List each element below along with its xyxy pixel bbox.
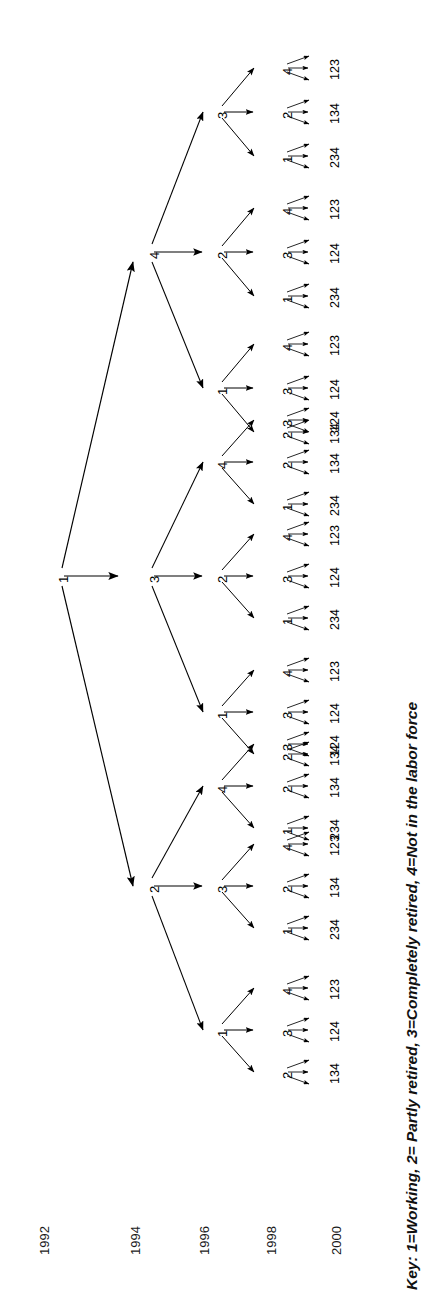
node-1996-1: 2 xyxy=(216,252,229,259)
node-1998-10: 2 xyxy=(281,462,294,469)
node-1998-25: 3 xyxy=(281,1030,294,1037)
leaf-2000-25: 124 xyxy=(329,1021,342,1042)
node-1992-root: 1 xyxy=(57,576,70,583)
key-note: Key: 1=Working, 2= Partly retired, 3=Com… xyxy=(404,702,420,1290)
node-1998-24: 4 xyxy=(281,988,294,995)
node-1996-2: 1 xyxy=(216,388,229,395)
leaf-2000-11: 234 xyxy=(329,495,342,516)
node-1998-12: 4 xyxy=(281,534,294,541)
node-1998-8: 2 xyxy=(281,432,294,439)
leaf-2000-26: 134 xyxy=(329,1063,342,1084)
leaf-2000-12: 123 xyxy=(329,525,342,546)
leaf-2000-4: 124 xyxy=(329,243,342,264)
node-1994-4: 4 xyxy=(148,252,161,259)
leaf-2000-6: 123 xyxy=(329,335,342,356)
leaf-2000-13: 124 xyxy=(329,567,342,588)
year-label-1998: 1998 xyxy=(265,1226,278,1255)
year-label-1994: 1994 xyxy=(129,1226,142,1255)
node-1998-20: 1 xyxy=(281,828,294,835)
figure-canvas: 1992 1994 1996 1998 2000 Key: 1=Working,… xyxy=(0,0,433,1310)
node-1996-3: 4 xyxy=(216,462,229,469)
node-1998-7: 3 xyxy=(281,388,294,395)
node-1998-2: 1 xyxy=(281,156,294,163)
node-1998-14: 1 xyxy=(281,618,294,625)
leaf-2000-19: 134 xyxy=(329,777,342,798)
leaf-2000-24: 123 xyxy=(329,979,342,1000)
leaf-2000-10: 134 xyxy=(329,453,342,474)
node-1998-11: 1 xyxy=(281,504,294,511)
node-1998-22: 2 xyxy=(281,886,294,893)
year-label-2000: 2000 xyxy=(330,1226,343,1255)
leaf-2000-16: 124 xyxy=(329,703,342,724)
leaf-2000-22: 134 xyxy=(329,877,342,898)
node-1998-26: 2 xyxy=(281,1072,294,1079)
node-1998-18: 3 xyxy=(281,744,294,751)
year-label-1992: 1992 xyxy=(38,1226,51,1255)
node-1998-21: 4 xyxy=(281,844,294,851)
node-1998-6: 4 xyxy=(281,344,294,351)
node-1996-6: 4 xyxy=(216,786,229,793)
node-1998-5: 1 xyxy=(281,296,294,303)
node-1996-0: 3 xyxy=(216,112,229,119)
tree-edges xyxy=(0,0,433,1310)
node-1996-5: 1 xyxy=(216,712,229,719)
node-1998-15: 4 xyxy=(281,670,294,677)
leaf-2000-21: 123 xyxy=(329,835,342,856)
node-1994-2: 2 xyxy=(148,886,161,893)
leaf-2000-23: 234 xyxy=(329,919,342,940)
node-1998-19: 2 xyxy=(281,786,294,793)
leaf-2000-0: 123 xyxy=(329,59,342,80)
node-1998-17: 2 xyxy=(281,754,294,761)
leaf-2000-2: 234 xyxy=(329,147,342,168)
node-1998-4: 3 xyxy=(281,252,294,259)
node-1994-3: 3 xyxy=(148,576,161,583)
node-1998-9: 3 xyxy=(281,420,294,427)
node-1998-1: 2 xyxy=(281,112,294,119)
node-1996-4: 2 xyxy=(216,576,229,583)
node-1998-3: 4 xyxy=(281,208,294,215)
node-1998-23: 1 xyxy=(281,928,294,935)
leaf-2000-1: 134 xyxy=(329,103,342,124)
year-label-1996: 1996 xyxy=(198,1226,211,1255)
node-1996-8: 1 xyxy=(216,1030,229,1037)
leaf-2000-3: 123 xyxy=(329,199,342,220)
leaf-2000-7: 124 xyxy=(329,379,342,400)
node-1998-0: 4 xyxy=(281,68,294,75)
leaf-2000-18: 124 xyxy=(329,735,342,756)
leaf-2000-9: 124 xyxy=(329,411,342,432)
leaf-2000-14: 234 xyxy=(329,609,342,630)
leaf-2000-5: 234 xyxy=(329,287,342,308)
node-1998-13: 3 xyxy=(281,576,294,583)
leaf-2000-15: 123 xyxy=(329,661,342,682)
node-1998-16: 3 xyxy=(281,712,294,719)
node-1996-7: 3 xyxy=(216,886,229,893)
